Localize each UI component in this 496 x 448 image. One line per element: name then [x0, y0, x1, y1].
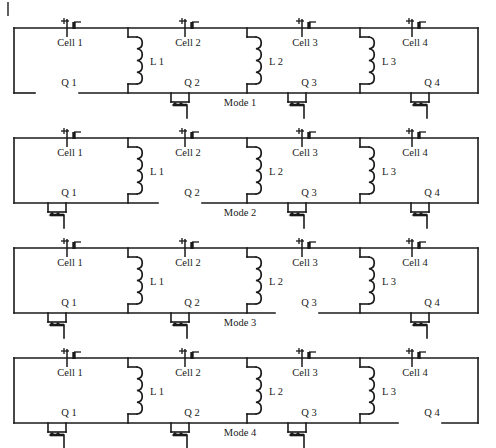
switch-label-1: Q 1 — [61, 77, 76, 88]
switch-label-3: Q 3 — [301, 77, 316, 88]
mosfet-symbol — [288, 93, 306, 118]
switch-label-3: Q 3 — [301, 407, 316, 418]
switch-label-2: Q 2 — [184, 187, 199, 198]
switch-label-2: Q 2 — [184, 77, 199, 88]
mode-caption: Mode 4 — [224, 427, 257, 438]
inductor-symbol — [247, 358, 261, 423]
inductor-symbol — [247, 248, 261, 313]
switch-label-4: Q 4 — [424, 187, 440, 198]
switch-label-1: Q 1 — [61, 187, 76, 198]
inductor-coil — [369, 37, 374, 84]
mosfet-symbol — [171, 313, 189, 338]
inductor-symbol — [128, 138, 142, 203]
switch-label-1: Q 1 — [61, 297, 76, 308]
switch-label-3: Q 3 — [301, 297, 316, 308]
inductor-label-3: L 3 — [382, 56, 396, 67]
inductor-coil — [256, 37, 261, 84]
switch-label-1: Q 1 — [61, 407, 76, 418]
switch-label-2: Q 2 — [184, 297, 199, 308]
inductor-symbol — [128, 248, 142, 313]
figure-canvas: Cell 1Cell 2Cell 3Cell 4L 1L 2L 3Q 1Q 2Q… — [0, 0, 496, 448]
inductor-label-1: L 1 — [150, 166, 164, 177]
cell-label-3: Cell 3 — [292, 257, 317, 268]
inductor-label-2: L 2 — [269, 56, 283, 67]
inductor-label-3: L 3 — [382, 386, 396, 397]
inductor-label-1: L 1 — [150, 56, 164, 67]
switch-label-4: Q 4 — [424, 77, 440, 88]
mosfet-symbol — [48, 313, 66, 338]
mosfet-symbol — [288, 423, 306, 448]
mode-caption: Mode 1 — [224, 97, 256, 108]
inductor-coil — [369, 367, 374, 414]
mosfet-symbol — [288, 203, 306, 228]
inductor-coil — [369, 147, 374, 194]
inductor-symbol — [360, 248, 374, 313]
mode-caption: Mode 3 — [224, 317, 256, 328]
inductor-label-2: L 2 — [269, 166, 283, 177]
cell-label-4: Cell 4 — [402, 367, 428, 378]
circuit-diagram: Cell 1Cell 2Cell 3Cell 4L 1L 2L 3Q 1Q 2Q… — [0, 0, 496, 448]
inductor-coil — [256, 367, 261, 414]
cell-label-4: Cell 4 — [402, 257, 428, 268]
cell-label-1: Cell 1 — [57, 37, 82, 48]
cell-label-2: Cell 2 — [175, 367, 200, 378]
inductor-symbol — [247, 28, 261, 93]
mode-caption: Mode 2 — [224, 207, 256, 218]
mosfet-symbol — [171, 93, 189, 118]
cell-label-1: Cell 1 — [57, 257, 82, 268]
inductor-coil — [137, 37, 142, 84]
inductor-symbol — [128, 358, 142, 423]
inductor-coil — [137, 367, 142, 414]
inductor-coil — [137, 257, 142, 304]
inductor-coil — [137, 147, 142, 194]
cell-label-2: Cell 2 — [175, 37, 200, 48]
inductor-label-3: L 3 — [382, 166, 396, 177]
inductor-symbol — [128, 28, 142, 93]
inductor-coil — [256, 257, 261, 304]
cell-label-3: Cell 3 — [292, 367, 317, 378]
cell-label-1: Cell 1 — [57, 147, 82, 158]
switch-label-4: Q 4 — [424, 407, 440, 418]
inductor-symbol — [360, 138, 374, 203]
mosfet-symbol — [411, 203, 429, 228]
mode-panel-2: Cell 1Cell 2Cell 3Cell 4L 1L 2L 3Q 1Q 2Q… — [14, 128, 478, 228]
inductor-coil — [369, 257, 374, 304]
mode-panel-1: Cell 1Cell 2Cell 3Cell 4L 1L 2L 3Q 1Q 2Q… — [14, 18, 478, 118]
mosfet-symbol — [48, 423, 66, 448]
mosfet-symbol — [411, 313, 429, 338]
mosfet-symbol — [171, 423, 189, 448]
cell-label-3: Cell 3 — [292, 37, 317, 48]
cell-label-1: Cell 1 — [57, 367, 82, 378]
inductor-label-2: L 2 — [269, 386, 283, 397]
switch-label-4: Q 4 — [424, 297, 440, 308]
cell-label-4: Cell 4 — [402, 147, 428, 158]
inductor-symbol — [360, 28, 374, 93]
cell-label-4: Cell 4 — [402, 37, 428, 48]
cell-label-3: Cell 3 — [292, 147, 317, 158]
inductor-label-1: L 1 — [150, 276, 164, 287]
cell-label-2: Cell 2 — [175, 147, 200, 158]
mode-panel-4: Cell 1Cell 2Cell 3Cell 4L 1L 2L 3Q 1Q 2Q… — [14, 348, 478, 448]
inductor-label-2: L 2 — [269, 276, 283, 287]
inductor-label-3: L 3 — [382, 276, 396, 287]
switch-label-2: Q 2 — [184, 407, 199, 418]
cell-label-2: Cell 2 — [175, 257, 200, 268]
mosfet-symbol — [411, 93, 429, 118]
inductor-label-1: L 1 — [150, 386, 164, 397]
inductor-symbol — [247, 138, 261, 203]
switch-label-3: Q 3 — [301, 187, 316, 198]
mosfet-symbol — [48, 203, 66, 228]
inductor-coil — [256, 147, 261, 194]
inductor-symbol — [360, 358, 374, 423]
mode-panel-3: Cell 1Cell 2Cell 3Cell 4L 1L 2L 3Q 1Q 2Q… — [14, 238, 478, 338]
